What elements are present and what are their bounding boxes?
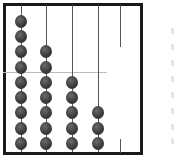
- abacus-bead: [92, 122, 104, 135]
- edge-artifact: [171, 76, 174, 82]
- abacus-bead: [15, 15, 27, 28]
- abacus-bead: [40, 91, 52, 104]
- abacus-bead: [15, 61, 27, 74]
- edge-artifact: [171, 124, 174, 130]
- abacus-bead: [15, 76, 27, 89]
- abacus-bead: [40, 76, 52, 89]
- abacus-bead: [92, 137, 104, 150]
- abacus-bead: [40, 61, 52, 74]
- abacus-rod-5-bottom: [120, 139, 121, 153]
- abacus-bead: [15, 30, 27, 43]
- edge-artifact: [171, 28, 174, 34]
- edge-artifact: [171, 60, 174, 66]
- abacus-bead: [40, 122, 52, 135]
- abacus-bead: [66, 122, 78, 135]
- abacus-bead: [66, 91, 78, 104]
- edge-artifact: [171, 138, 174, 144]
- abacus-bead: [66, 137, 78, 150]
- edge-artifact: [171, 92, 174, 98]
- abacus-bead: [15, 122, 27, 135]
- edge-artifact: [171, 108, 174, 114]
- abacus-rod-5: [120, 5, 121, 47]
- abacus-bead: [15, 137, 27, 150]
- abacus-bead: [40, 137, 52, 150]
- edge-artifact: [171, 44, 174, 50]
- abacus-bead: [66, 76, 78, 89]
- abacus-bead: [15, 91, 27, 104]
